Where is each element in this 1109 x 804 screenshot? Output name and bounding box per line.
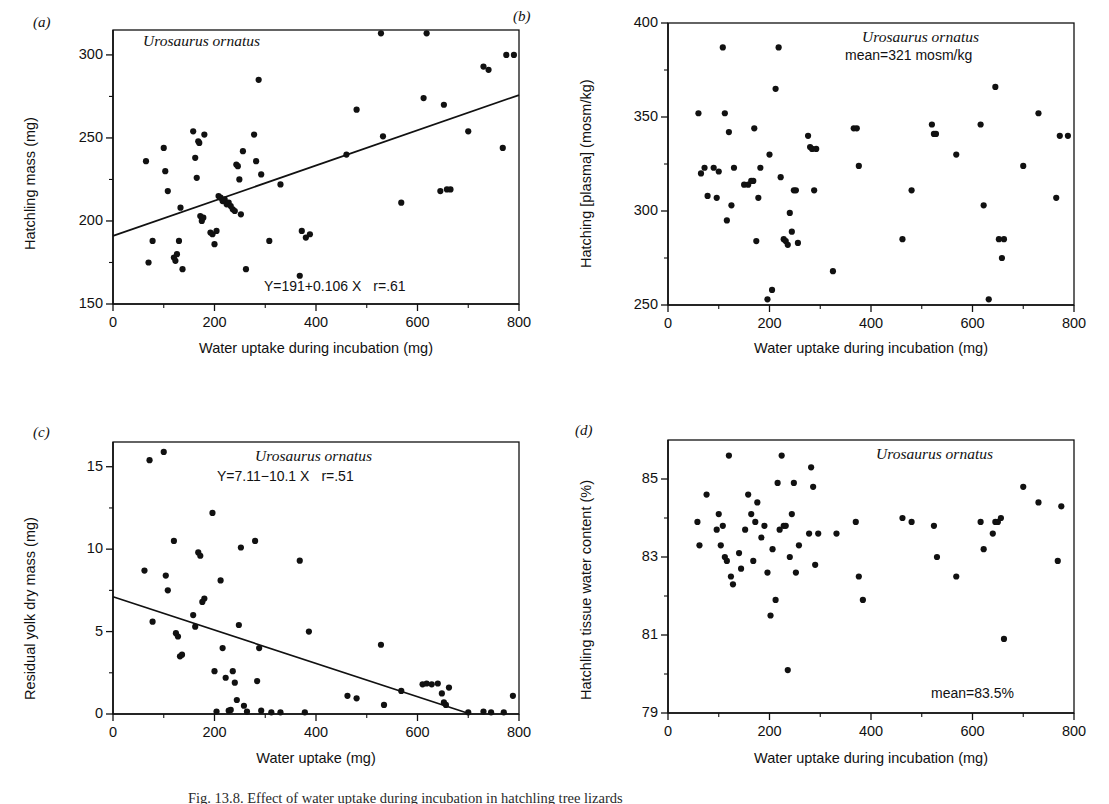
data-point: [465, 128, 471, 134]
data-point: [791, 480, 797, 486]
data-point: [299, 228, 305, 234]
data-point: [200, 215, 206, 221]
data-point: [992, 84, 998, 90]
ytick-label-b: 250: [606, 296, 658, 312]
ytick-label-c: 5: [51, 623, 103, 639]
data-point: [796, 542, 802, 548]
data-point: [728, 202, 734, 208]
data-point: [217, 577, 223, 583]
xtick-label-b: 800: [1044, 315, 1104, 331]
xtick-label-a: 200: [185, 314, 245, 330]
data-point: [742, 527, 748, 533]
data-point: [398, 200, 404, 206]
ytick-label-a: 300: [51, 46, 103, 62]
data-point: [769, 287, 775, 293]
data-point: [720, 44, 726, 50]
xtick-label-b: 600: [943, 315, 1003, 331]
data-point: [1055, 558, 1061, 564]
data-point: [297, 558, 303, 564]
data-point: [909, 187, 915, 193]
data-point: [234, 697, 240, 703]
data-point: [465, 709, 471, 715]
data-point: [165, 188, 171, 194]
correlation-text-a: r=.61: [373, 278, 405, 294]
data-point: [480, 63, 486, 69]
data-point: [728, 573, 734, 579]
data-point: [990, 531, 996, 537]
data-point: [176, 238, 182, 244]
data-point: [302, 709, 308, 715]
data-point: [174, 251, 180, 257]
data-point: [738, 566, 744, 572]
data-point: [785, 667, 791, 673]
panel-letter-c: (c): [33, 424, 50, 441]
data-point: [726, 453, 732, 459]
y-axis-label-b: Hatching [plasma] (mosm/kg): [578, 79, 594, 268]
data-point: [795, 240, 801, 246]
ytick-label-c: 15: [51, 458, 103, 474]
data-point: [179, 266, 185, 272]
data-point: [981, 546, 987, 552]
data-point: [953, 573, 959, 579]
species-annotation-b: Urosaurus ornatus: [862, 28, 979, 46]
data-point: [767, 612, 773, 618]
data-point: [235, 163, 241, 169]
data-point: [213, 228, 219, 234]
data-point: [1001, 636, 1007, 642]
x-axis-label-d: Water uptake during incubation (mg): [668, 750, 1074, 766]
data-point: [354, 695, 360, 701]
xtick-label-b: 0: [638, 315, 698, 331]
data-point: [443, 702, 449, 708]
x-axis-label-b: Water uptake during incubation (mg): [668, 340, 1074, 356]
data-point: [211, 668, 217, 674]
data-point: [381, 702, 387, 708]
data-point: [853, 519, 859, 525]
data-point: [720, 523, 726, 529]
data-point: [192, 624, 198, 630]
data-point: [424, 30, 430, 36]
xtick-label-a: 600: [388, 314, 448, 330]
data-point: [731, 165, 737, 171]
xtick-label-a: 0: [83, 314, 143, 330]
data-point: [209, 510, 215, 516]
data-point: [243, 266, 249, 272]
data-point: [500, 145, 506, 151]
data-point: [730, 581, 736, 587]
species-annotation-d: Urosaurus ornatus: [876, 445, 993, 463]
data-points-a: [143, 30, 517, 279]
data-point: [510, 693, 516, 699]
data-point: [929, 121, 935, 127]
data-point: [258, 708, 264, 714]
data-point: [750, 178, 756, 184]
data-point: [722, 110, 728, 116]
data-point: [1001, 236, 1007, 242]
data-point: [999, 255, 1005, 261]
data-point: [860, 597, 866, 603]
data-point: [789, 511, 795, 517]
panel-letter-b: (b): [513, 8, 531, 25]
data-point: [775, 480, 781, 486]
xtick-label-c: 0: [83, 724, 143, 740]
data-point: [253, 158, 259, 164]
data-point: [196, 140, 202, 146]
data-point: [441, 102, 447, 108]
data-point: [141, 567, 147, 573]
xtick-label-d: 800: [1044, 723, 1104, 739]
data-point: [343, 151, 349, 157]
data-point: [764, 570, 770, 576]
ytick-label-b: 400: [606, 14, 658, 30]
data-points-d: [694, 453, 1064, 674]
data-point: [724, 558, 730, 564]
data-point: [190, 612, 196, 618]
data-point: [201, 596, 207, 602]
data-point: [978, 519, 984, 525]
panel-letter-d: (d): [575, 422, 593, 439]
data-point: [830, 268, 836, 274]
data-point: [190, 128, 196, 134]
data-point: [978, 121, 984, 127]
xtick-label-c: 800: [489, 724, 549, 740]
data-point: [192, 155, 198, 161]
data-point: [228, 707, 234, 713]
data-point: [277, 181, 283, 187]
data-point: [934, 554, 940, 560]
